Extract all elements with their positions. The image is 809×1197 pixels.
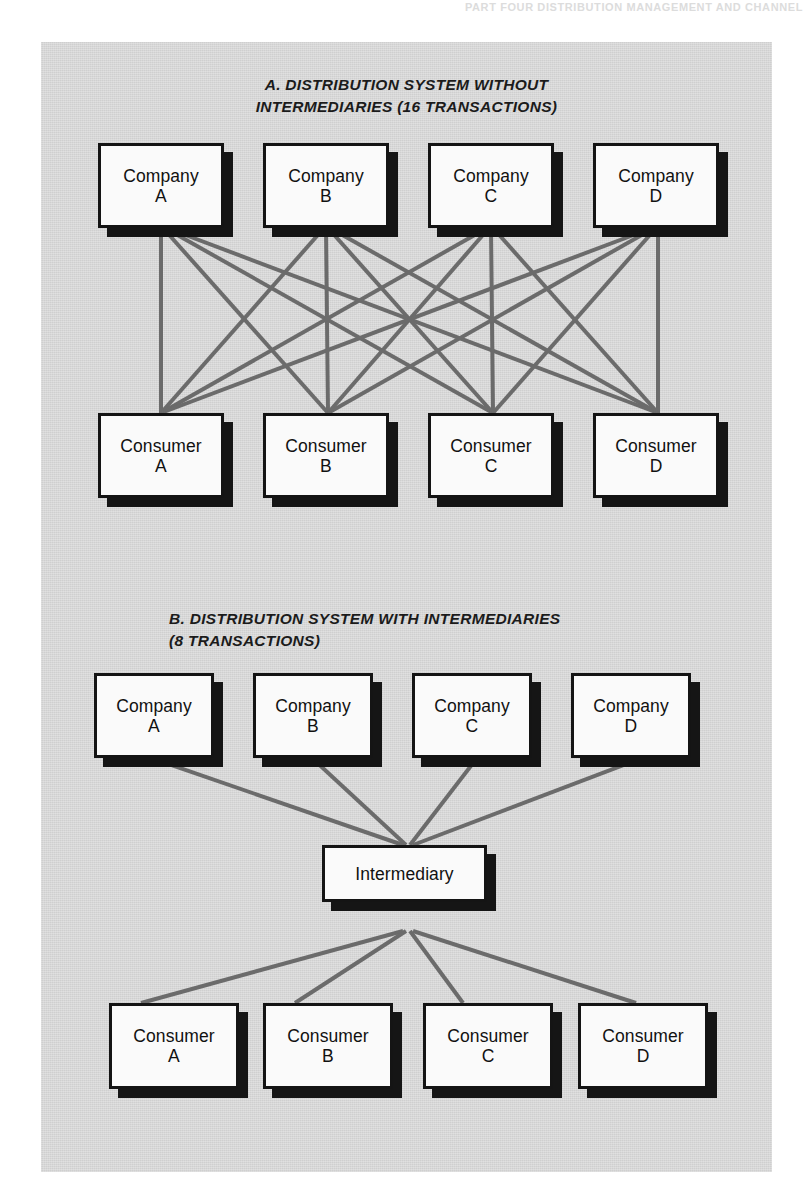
link-a-companyB-consumerA [161, 228, 324, 413]
node-label: Consumer D [602, 1026, 684, 1066]
node-face: Company A [98, 143, 224, 228]
section-b-caption: B. DISTRIBUTION SYSTEM WITH INTERMEDIARI… [169, 608, 729, 652]
node-face: Consumer B [263, 413, 389, 498]
node-label: Company C [453, 166, 529, 206]
link-a-companyA-consumerC [165, 228, 493, 413]
node-company-a-2[interactable]: Company A [94, 673, 214, 758]
node-label: Company B [288, 166, 364, 206]
node-label: Consumer C [450, 436, 532, 476]
node-label: Consumer A [133, 1026, 215, 1066]
node-company-a-1[interactable]: Company A [98, 143, 224, 228]
node-company-b-2[interactable]: Company B [253, 673, 373, 758]
link-a-companyC-consumerB [328, 228, 489, 413]
node-label: Company A [123, 166, 199, 206]
node-face: Company C [412, 673, 532, 758]
node-label: Company B [275, 696, 351, 736]
node-label: Consumer B [285, 436, 367, 476]
node-company-c-2[interactable]: Company C [412, 673, 532, 758]
node-face: Consumer A [109, 1003, 239, 1089]
node-face: Company A [94, 673, 214, 758]
link-a-companyC-consumerD [493, 228, 658, 413]
link-a-companyD-consumerB [328, 228, 654, 413]
link-a-companyC-consumerA [161, 228, 487, 413]
link-a-companyC-consumerC [491, 228, 493, 413]
node-label: Consumer C [447, 1026, 529, 1066]
node-consumer-d-1[interactable]: Consumer D [593, 413, 719, 498]
running-head: PART FOUR DISTRIBUTION MANAGEMENT AND CH… [0, 0, 809, 11]
node-face: Company C [428, 143, 554, 228]
link-b-companyA-intermediary [151, 758, 403, 845]
node-face: Company B [253, 673, 373, 758]
link-a-companyA-consumerD [167, 228, 658, 413]
node-intermediary[interactable]: Intermediary [322, 845, 487, 902]
section-a-caption: A. DISTRIBUTION SYSTEM WITHOUT INTERMEDI… [41, 74, 772, 118]
node-consumer-b-2[interactable]: Consumer B [263, 1003, 393, 1089]
link-a-companyD-consumerC [493, 228, 656, 413]
node-consumer-a-1[interactable]: Consumer A [98, 413, 224, 498]
running-head-text: PART FOUR DISTRIBUTION MANAGEMENT AND CH… [465, 2, 803, 11]
link-a-companyB-consumerC [328, 228, 493, 413]
link-a-companyA-consumerB [163, 228, 328, 413]
node-face: Consumer D [578, 1003, 708, 1089]
node-company-c-1[interactable]: Company C [428, 143, 554, 228]
link-a-companyD-consumerA [161, 228, 652, 413]
node-company-d-1[interactable]: Company D [593, 143, 719, 228]
node-consumer-a-2[interactable]: Consumer A [109, 1003, 239, 1089]
node-face: Consumer C [423, 1003, 553, 1089]
node-face: Intermediary [322, 845, 487, 902]
link-b-intermediary-consumerC [410, 931, 463, 1003]
node-face: Company B [263, 143, 389, 228]
figure-panel: A. DISTRIBUTION SYSTEM WITHOUT INTERMEDI… [41, 42, 772, 1172]
node-face: Company D [571, 673, 691, 758]
node-label: Company D [593, 696, 669, 736]
node-label: Consumer B [287, 1026, 369, 1066]
link-b-companyD-intermediary [413, 758, 642, 845]
node-face: Consumer B [263, 1003, 393, 1089]
link-b-intermediary-consumerA [141, 931, 403, 1003]
node-face: Consumer C [428, 413, 554, 498]
link-a-companyB-consumerB [326, 228, 328, 413]
node-company-d-2[interactable]: Company D [571, 673, 691, 758]
node-company-b-1[interactable]: Company B [263, 143, 389, 228]
node-face: Company D [593, 143, 719, 228]
link-b-companyB-intermediary [312, 758, 406, 845]
node-label: Company C [434, 696, 510, 736]
node-consumer-b-1[interactable]: Consumer B [263, 413, 389, 498]
node-label: Intermediary [355, 864, 453, 884]
node-label: Company A [116, 696, 192, 736]
node-label: Company D [618, 166, 694, 206]
link-b-companyC-intermediary [410, 758, 477, 845]
node-face: Consumer D [593, 413, 719, 498]
link-b-intermediary-consumerD [413, 931, 636, 1003]
node-face: Consumer A [98, 413, 224, 498]
node-consumer-c-2[interactable]: Consumer C [423, 1003, 553, 1089]
link-a-companyB-consumerD [330, 228, 658, 413]
node-consumer-c-1[interactable]: Consumer C [428, 413, 554, 498]
node-consumer-d-2[interactable]: Consumer D [578, 1003, 708, 1089]
node-label: Consumer A [120, 436, 202, 476]
link-b-intermediary-consumerB [295, 931, 406, 1003]
node-label: Consumer D [615, 436, 697, 476]
